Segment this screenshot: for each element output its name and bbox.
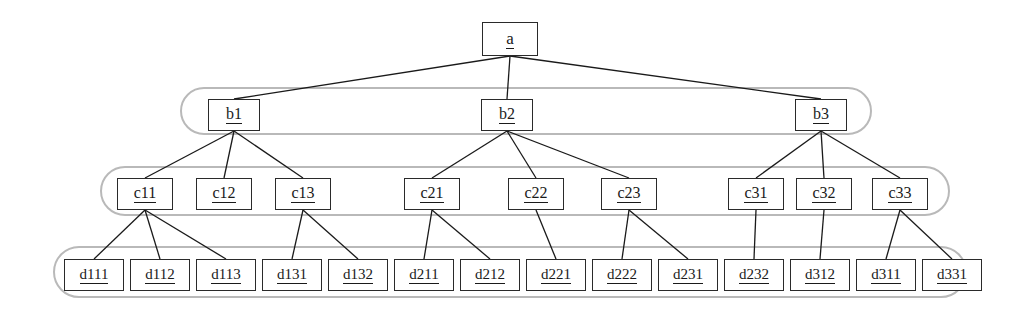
tree-nodes: ab1b2b3c11c12c13c21c22c23c31c32c33d111d1… bbox=[0, 0, 1015, 329]
tree-node-d212[interactable]: d212 bbox=[460, 259, 520, 291]
tree-node-label-c21: c21 bbox=[420, 185, 443, 203]
tree-node-c23[interactable]: c23 bbox=[601, 178, 657, 210]
tree-node-d111[interactable]: d111 bbox=[64, 259, 124, 291]
tree-node-d112[interactable]: d112 bbox=[130, 259, 190, 291]
tree-node-label-c31: c31 bbox=[744, 185, 767, 203]
tree-node-d221[interactable]: d221 bbox=[526, 259, 586, 291]
tree-node-label-a: a bbox=[506, 30, 514, 49]
tree-node-label-c23: c23 bbox=[617, 185, 640, 203]
tree-node-label-c13: c13 bbox=[291, 185, 314, 203]
tree-node-label-d232: d232 bbox=[739, 267, 769, 284]
tree-node-c22[interactable]: c22 bbox=[508, 178, 564, 210]
tree-node-b1[interactable]: b1 bbox=[208, 99, 260, 131]
tree-node-label-d111: d111 bbox=[80, 267, 109, 284]
tree-node-label-d231: d231 bbox=[673, 267, 703, 284]
tree-node-d231[interactable]: d231 bbox=[658, 259, 718, 291]
tree-node-label-d222: d222 bbox=[607, 267, 637, 284]
tree-node-label-b2: b2 bbox=[499, 106, 515, 124]
tree-node-label-b1: b1 bbox=[226, 106, 242, 124]
tree-node-c33[interactable]: c33 bbox=[872, 178, 928, 210]
tree-node-label-d132: d132 bbox=[343, 267, 373, 284]
tree-node-label-c22: c22 bbox=[524, 185, 547, 203]
tree-node-b2[interactable]: b2 bbox=[481, 99, 533, 131]
tree-node-label-c33: c33 bbox=[888, 185, 911, 203]
tree-node-d222[interactable]: d222 bbox=[592, 259, 652, 291]
tree-node-label-d112: d112 bbox=[145, 267, 174, 284]
tree-node-c21[interactable]: c21 bbox=[404, 178, 460, 210]
tree-node-c13[interactable]: c13 bbox=[275, 178, 331, 210]
tree-node-c32[interactable]: c32 bbox=[796, 178, 852, 210]
tree-node-d312[interactable]: d312 bbox=[790, 259, 850, 291]
tree-node-c12[interactable]: c12 bbox=[196, 178, 252, 210]
tree-node-d232[interactable]: d232 bbox=[724, 259, 784, 291]
tree-node-label-d131: d131 bbox=[277, 267, 307, 284]
tree-node-label-d212: d212 bbox=[475, 267, 505, 284]
tree-node-c11[interactable]: c11 bbox=[117, 178, 173, 210]
tree-node-label-d331: d331 bbox=[937, 267, 967, 284]
tree-node-d132[interactable]: d132 bbox=[328, 259, 388, 291]
tree-node-d113[interactable]: d113 bbox=[196, 259, 256, 291]
tree-node-d211[interactable]: d211 bbox=[394, 259, 454, 291]
tree-node-d331[interactable]: d331 bbox=[922, 259, 982, 291]
tree-diagram: ab1b2b3c11c12c13c21c22c23c31c32c33d111d1… bbox=[0, 0, 1015, 329]
tree-node-a[interactable]: a bbox=[482, 22, 538, 56]
tree-node-label-c12: c12 bbox=[212, 185, 235, 203]
tree-node-label-c32: c32 bbox=[812, 185, 835, 203]
tree-node-label-d211: d211 bbox=[409, 267, 438, 284]
tree-node-d311[interactable]: d311 bbox=[856, 259, 916, 291]
tree-node-label-b3: b3 bbox=[813, 106, 829, 124]
tree-node-label-d221: d221 bbox=[541, 267, 571, 284]
tree-node-label-d311: d311 bbox=[871, 267, 900, 284]
tree-node-label-d312: d312 bbox=[805, 267, 835, 284]
tree-node-c31[interactable]: c31 bbox=[728, 178, 784, 210]
tree-node-label-d113: d113 bbox=[211, 267, 240, 284]
tree-node-label-c11: c11 bbox=[134, 185, 157, 203]
tree-node-d131[interactable]: d131 bbox=[262, 259, 322, 291]
tree-node-b3[interactable]: b3 bbox=[795, 99, 847, 131]
